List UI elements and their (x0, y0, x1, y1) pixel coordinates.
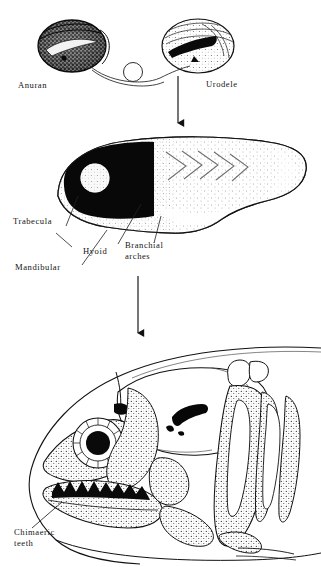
label-anuran: Anuran (18, 80, 47, 90)
urodele-embryo (162, 19, 236, 75)
panel-skull (29, 347, 321, 564)
figure-illustration (0, 0, 321, 567)
label-branchial-arches-line1: Branchial (125, 240, 163, 250)
figure-root: Anuran Urodele Trabecula Mandibular Hyoi… (0, 0, 321, 567)
panel-larva (50, 132, 316, 333)
pupil (86, 431, 110, 455)
label-hyoid: Hyoid (83, 246, 107, 256)
panel-embryos (34, 18, 236, 123)
anuran-embryo (34, 18, 114, 76)
label-urodele: Urodele (206, 79, 238, 89)
label-branchial-arches-line2: arches (125, 251, 150, 261)
label-chimaeric-teeth-line2: teeth (14, 538, 33, 548)
label-trabecula: Trabecula (13, 216, 52, 226)
label-mandibular: Mandibular (15, 262, 61, 272)
label-chimaeric-teeth-line1: Chimaeric (14, 527, 55, 537)
